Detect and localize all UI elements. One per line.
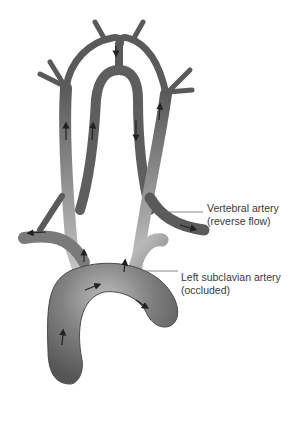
subclavian-steal-diagram: Vertebral artery (reverse flow) Left sub… bbox=[0, 0, 294, 424]
vertebral-label-line1: Vertebral artery bbox=[207, 202, 279, 215]
vertebral-label-line2: (reverse flow) bbox=[207, 215, 279, 228]
subclavian-label-line2: (occluded) bbox=[181, 284, 281, 297]
subclavian-artery-label: Left subclavian artery (occluded) bbox=[181, 271, 281, 297]
right-vertebral-vessel bbox=[40, 196, 62, 230]
vertebral-artery-label: Vertebral artery (reverse flow) bbox=[207, 202, 279, 228]
aortic-arch bbox=[48, 263, 178, 384]
inner-loop-vessel bbox=[80, 70, 150, 210]
vertebral-artery-reverse-flow bbox=[150, 198, 204, 230]
subclavian-label-line1: Left subclavian artery bbox=[181, 271, 281, 284]
